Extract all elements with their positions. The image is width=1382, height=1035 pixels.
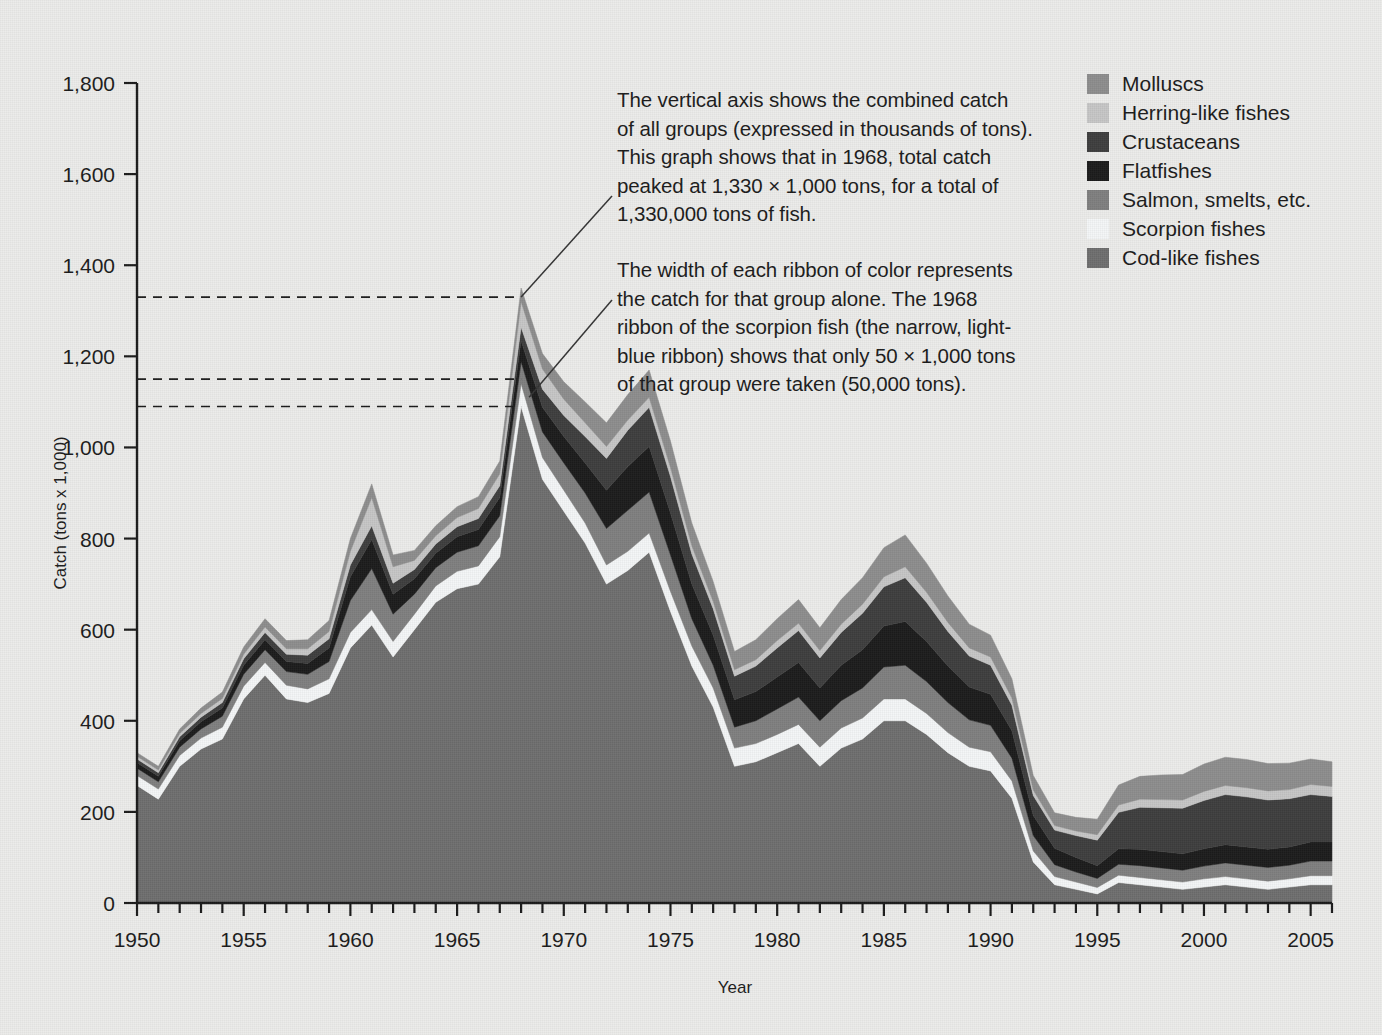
x-tick-label-9: 1995 xyxy=(1074,928,1121,951)
x-tick-label-10: 2000 xyxy=(1181,928,1228,951)
legend-item-2[interactable]: Crustaceans xyxy=(1087,128,1240,155)
x-axis-ticks: 1950195519601965197019751980198519901995… xyxy=(114,903,1334,951)
x-tick-label-0: 1950 xyxy=(114,928,161,951)
legend-swatch-icon-2 xyxy=(1087,132,1109,152)
legend-item-4[interactable]: Salmon, smelts, etc. xyxy=(1087,186,1311,213)
legend-item-1[interactable]: Herring-like fishes xyxy=(1087,99,1290,126)
y-tick-label-4: 800 xyxy=(80,528,115,551)
guide-lines xyxy=(137,297,521,406)
legend-item-5[interactable]: Scorpion fishes xyxy=(1087,215,1266,242)
x-tick-label-4: 1970 xyxy=(540,928,587,951)
y-tick-label-5: 1,000 xyxy=(62,436,115,459)
x-tick-label-8: 1990 xyxy=(967,928,1014,951)
y-tick-label-0: 0 xyxy=(103,892,115,915)
legend-item-3[interactable]: Flatfishes xyxy=(1087,157,1212,184)
legend-swatch-icon-1 xyxy=(1087,103,1109,123)
legend-label-2: Crustaceans xyxy=(1122,131,1240,152)
x-tick-label-2: 1960 xyxy=(327,928,374,951)
leader-line-peak xyxy=(521,196,612,297)
leader-line-scorpion xyxy=(529,300,612,397)
legend-swatch-icon-4 xyxy=(1087,190,1109,210)
legend-swatch-icon-5 xyxy=(1087,219,1109,239)
x-tick-label-11: 2005 xyxy=(1287,928,1334,951)
y-tick-label-8: 1,600 xyxy=(62,163,115,186)
x-axis-title: Year xyxy=(718,978,753,997)
legend-item-6[interactable]: Cod-like fishes xyxy=(1087,244,1260,271)
x-tick-label-6: 1980 xyxy=(754,928,801,951)
annotation-scorpion-ribbon: The width of each ribbon of color repres… xyxy=(617,256,1047,399)
y-tick-label-9: 1,800 xyxy=(62,72,115,95)
legend-label-4: Salmon, smelts, etc. xyxy=(1122,189,1311,210)
x-tick-label-3: 1965 xyxy=(434,928,481,951)
legend-label-5: Scorpion fishes xyxy=(1122,218,1266,239)
legend-label-3: Flatfishes xyxy=(1122,160,1212,181)
y-tick-label-6: 1,200 xyxy=(62,345,115,368)
y-axis-ticks: 02004006008001,0001,2001,4001,6001,800 xyxy=(62,72,137,915)
y-tick-label-1: 200 xyxy=(80,801,115,824)
y-tick-label-3: 600 xyxy=(80,619,115,642)
x-tick-label-1: 1955 xyxy=(220,928,267,951)
legend-label-6: Cod-like fishes xyxy=(1122,247,1260,268)
legend-item-0[interactable]: Molluscs xyxy=(1087,70,1204,97)
x-tick-label-7: 1985 xyxy=(861,928,908,951)
legend-swatch-icon-0 xyxy=(1087,74,1109,94)
legend-swatch-icon-6 xyxy=(1087,248,1109,268)
legend-label-1: Herring-like fishes xyxy=(1122,102,1290,123)
legend-swatch-icon-3 xyxy=(1087,161,1109,181)
annotation-peak-total: The vertical axis shows the combined cat… xyxy=(617,86,1037,229)
y-axis-title: Catch (tons x 1,000) xyxy=(51,436,70,589)
legend-label-0: Molluscs xyxy=(1122,73,1204,94)
chart-page: 02004006008001,0001,2001,4001,6001,80019… xyxy=(0,0,1382,1035)
y-tick-label-7: 1,400 xyxy=(62,254,115,277)
y-tick-label-2: 400 xyxy=(80,710,115,733)
x-tick-label-5: 1975 xyxy=(647,928,694,951)
